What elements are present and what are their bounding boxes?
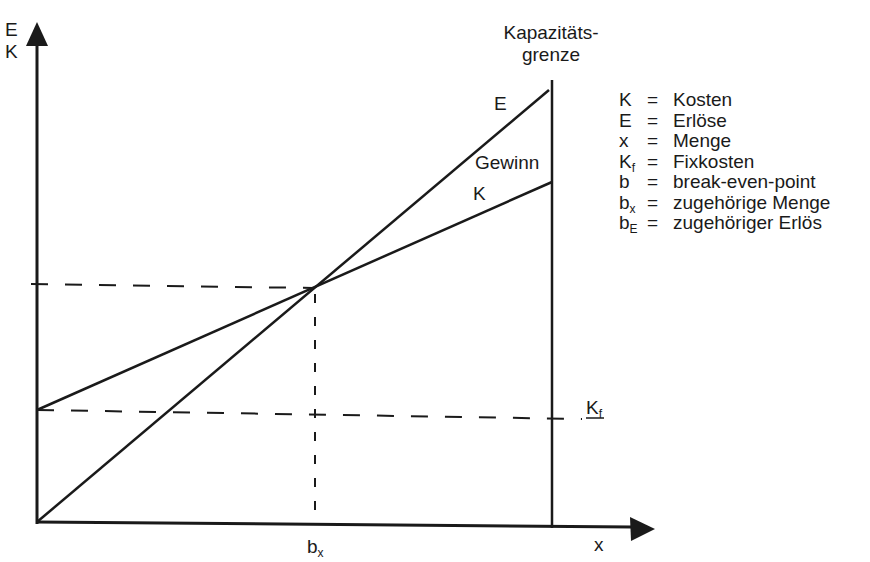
x-axis-arrow-icon [630,517,655,541]
break-even-revenue-dashed-line [31,284,313,288]
x-axis-label: x [594,535,604,555]
kf-sub: f [599,407,602,421]
legend-item: bE=zugehöriger Erlös [619,213,830,234]
bx-label: bx [307,537,324,557]
legend: K=Kosten E=Erlöse x=Menge Kf=Fixkosten b… [619,90,830,234]
y-axis-label-K: K [5,42,18,62]
kf-main: K [586,397,599,418]
legend-item: b=break-even-point [619,172,830,193]
legend-item: Kf=Fixkosten [619,152,830,173]
y-axis-label-E: E [5,20,18,40]
bx-main: b [307,536,318,557]
legend-item: x=Menge [619,131,830,152]
fixed-cost-line-Kf [37,410,582,419]
curve-label-Kf: Kf [586,398,602,418]
capacity-label-line1: Kapazitäts- [486,22,616,44]
y-axis-arrow-icon [26,22,48,46]
cost-line-K [37,182,552,410]
break-even-chart [0,0,870,562]
capacity-limit-label: Kapazitäts- grenze [486,22,616,66]
legend-item: K=Kosten [619,90,830,111]
x-axis [36,522,632,527]
revenue-line-E [37,90,549,522]
legend-item: bx=zugehörige Menge [619,193,830,214]
curve-label-E: E [494,94,507,114]
legend-item: E=Erlöse [619,111,830,132]
bx-sub: x [318,546,324,560]
profit-label: Gewinn [475,153,539,173]
capacity-label-line2: grenze [486,44,616,66]
curve-label-K: K [473,184,486,204]
